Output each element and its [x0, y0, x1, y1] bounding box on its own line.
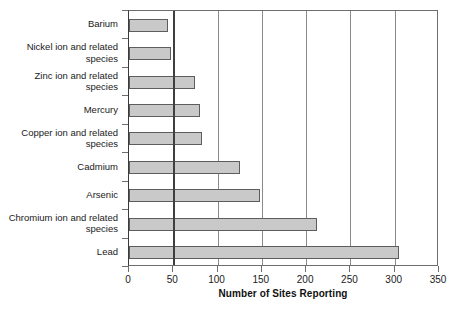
y-axis-tick [122, 10, 128, 11]
y-axis-tick [122, 152, 128, 153]
x-axis-tick-label: 100 [197, 274, 237, 285]
x-axis-tick [172, 266, 173, 272]
category-label: Cadmium [0, 154, 118, 178]
x-axis-tick-label: 50 [152, 274, 192, 285]
bar[interactable] [129, 47, 171, 60]
y-axis-tick [122, 124, 128, 125]
bar-band [129, 11, 437, 39]
x-axis-tick [394, 266, 395, 272]
bar[interactable] [129, 76, 195, 89]
category-label: Arsenic [0, 183, 118, 207]
y-axis-tick [122, 209, 128, 210]
bar-band [129, 39, 437, 67]
bar-band [129, 239, 437, 267]
y-axis-tick [122, 238, 128, 239]
x-axis-tick [349, 266, 350, 272]
y-axis-tick [122, 67, 128, 68]
y-axis-tick [122, 181, 128, 182]
bar-band [129, 210, 437, 238]
x-axis-tick-label: 0 [108, 274, 148, 285]
bar-band [129, 96, 437, 124]
bar[interactable] [129, 19, 168, 32]
bar-band [129, 153, 437, 181]
bar-band [129, 125, 437, 153]
plot-area [128, 10, 438, 266]
x-axis-tick-label: 300 [374, 274, 414, 285]
bar[interactable] [129, 161, 240, 174]
x-axis-tick-label: 250 [329, 274, 369, 285]
x-axis-tick [217, 266, 218, 272]
bar[interactable] [129, 104, 200, 117]
category-label: Mercury [0, 98, 118, 122]
gridline-50 [173, 11, 175, 265]
category-label: Nickel ion and related species [0, 41, 118, 65]
category-label: Lead [0, 240, 118, 264]
x-axis-tick-label: 350 [418, 274, 452, 285]
x-axis-tick [305, 266, 306, 272]
category-label: Chromium ion and related species [0, 211, 118, 235]
x-axis-tick-label: 150 [241, 274, 281, 285]
bar-chart-figure: 050100150200250300350 Number of Sites Re… [0, 0, 452, 309]
category-label: Zinc ion and related species [0, 69, 118, 93]
bar[interactable] [129, 189, 260, 202]
bars-layer [129, 11, 437, 265]
bar[interactable] [129, 218, 317, 231]
bar[interactable] [129, 246, 399, 259]
category-label: Copper ion and related species [0, 126, 118, 150]
y-axis-tick [122, 95, 128, 96]
x-axis-tick [438, 266, 439, 272]
x-axis-tick [261, 266, 262, 272]
x-axis-tick-label: 200 [285, 274, 325, 285]
y-axis-tick [122, 38, 128, 39]
x-axis-title: Number of Sites Reporting [128, 288, 438, 299]
x-axis-tick [128, 266, 129, 272]
bar[interactable] [129, 132, 202, 145]
bar-band [129, 68, 437, 96]
bar-band [129, 182, 437, 210]
category-label: Barium [0, 12, 118, 36]
